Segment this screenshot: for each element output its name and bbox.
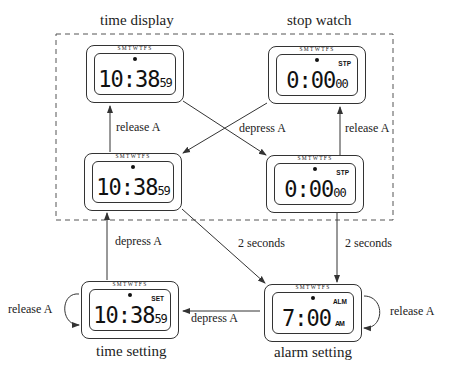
watch-alarm-setting: SMTWTFS ALM 7:00AM [264,284,362,342]
mode-tag-stp: STP [338,60,351,67]
title-alarm-setting: alarm setting [274,344,352,361]
title-stop-watch: stop watch [287,12,352,29]
label-depress-a-cross: depress A [239,121,286,136]
weekday-row: SMTWTFS [82,281,178,287]
label-depress-a-left: depress A [115,234,162,249]
lcd-screen: 10:3859 [92,161,174,203]
mode-tag-stp: STP [336,169,349,176]
watch-stop-watch-inner: SMTWTFS STP 0:0000 [266,155,364,213]
weekday-row: SMTWTFS [85,153,181,159]
watch-time-display-inner: SMTWTFS 10:3859 [84,153,182,211]
label-release-a-loop-right: release A [390,304,434,319]
lcd-digits: 0:0000 [277,68,357,93]
lcd-screen: STP 0:0000 [274,163,356,205]
lcd-digits: 7:00AM [273,306,353,331]
weekday-row: SMTWTFS [269,46,365,52]
label-release-a-left: release A [116,120,160,135]
title-time-display: time display [100,12,174,29]
lcd-screen: 10:3859 [94,53,176,95]
label-two-seconds-right: 2 seconds [345,236,392,251]
indicator-dot [131,165,135,169]
watch-stop-watch: SMTWTFS STP 0:0000 [268,46,366,104]
weekday-row: SMTWTFS [87,45,183,51]
indicator-dot [313,167,317,171]
title-time-setting: time setting [96,343,166,360]
lcd-digits: 10:3859 [90,303,170,328]
label-release-a-loop-left: release A [8,302,52,317]
lcd-screen: SET 10:3859 [89,289,171,331]
mode-tag-set: SET [151,295,164,302]
lcd-screen: STP 0:0000 [276,54,358,96]
indicator-dot [311,296,315,300]
lcd-digits: 10:3859 [93,175,173,200]
lcd-digits: 0:0000 [275,177,355,202]
label-two-seconds-diagonal: 2 seconds [238,236,285,251]
label-depress-a-bottom: depress A [191,311,238,326]
indicator-dot [128,293,132,297]
lcd-digits: 10:3859 [95,67,175,92]
watch-time-display: SMTWTFS 10:3859 [86,45,184,103]
weekday-row: SMTWTFS [267,155,363,161]
indicator-dot [133,57,137,61]
label-release-a-right: release A [345,121,389,136]
indicator-dot [315,58,319,62]
weekday-row: SMTWTFS [265,284,361,290]
lcd-screen: ALM 7:00AM [272,292,354,334]
watch-time-setting: SMTWTFS SET 10:3859 [81,281,179,339]
mode-tag-alm: ALM [333,298,347,305]
